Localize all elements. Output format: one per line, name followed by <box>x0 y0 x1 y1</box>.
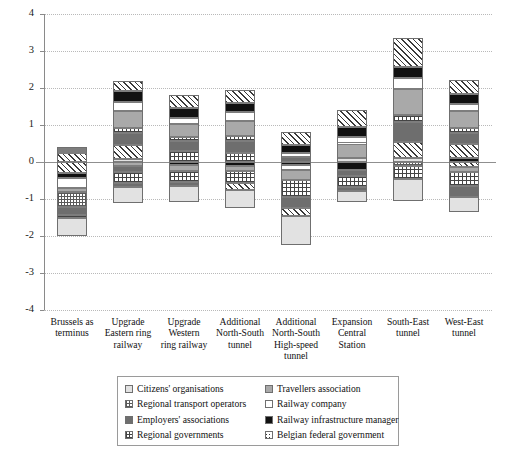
bar-segment[interactable] <box>337 127 367 137</box>
bar-segment[interactable] <box>57 153 87 162</box>
bar-column[interactable] <box>337 14 367 310</box>
x-axis-label-line: Additional <box>265 316 327 327</box>
bar-segment[interactable] <box>281 216 311 246</box>
bar-segment[interactable] <box>337 162 367 170</box>
x-axis-label-line: Brussels as <box>41 316 103 327</box>
bar-segment[interactable] <box>113 102 143 111</box>
bar-segment[interactable] <box>57 192 87 207</box>
bar-segment[interactable] <box>393 142 423 159</box>
bar-segment[interactable] <box>449 128 479 133</box>
bar-segment[interactable] <box>113 145 143 159</box>
x-axis-label-line: Additional <box>209 316 271 327</box>
bar-segment[interactable] <box>225 171 255 183</box>
bar-segment[interactable] <box>169 151 199 162</box>
bar-column[interactable] <box>225 14 255 310</box>
bar-segment[interactable] <box>393 115 423 122</box>
bar-segment[interactable] <box>225 112 255 120</box>
bar-segment[interactable] <box>281 197 311 208</box>
legend-grid: Citizens' organisationsTravellers associ… <box>125 381 392 443</box>
legend: Citizens' organisationsTravellers associ… <box>117 376 399 446</box>
bar-column[interactable] <box>449 14 479 310</box>
bar-segment[interactable] <box>449 144 479 158</box>
bar-segment[interactable] <box>169 186 199 202</box>
x-axis-category-label: South-Easttunnel <box>377 316 439 339</box>
gridline <box>44 310 492 311</box>
bar-segment[interactable] <box>337 144 367 158</box>
bar-segment[interactable] <box>113 91 143 103</box>
bar-column[interactable] <box>393 14 423 310</box>
bar-segment[interactable] <box>113 128 143 133</box>
bar-segment[interactable] <box>393 179 423 200</box>
bar-column[interactable] <box>57 14 87 310</box>
bar-segment[interactable] <box>169 108 199 118</box>
bar-segment[interactable] <box>281 170 311 180</box>
bar-column[interactable] <box>169 14 199 310</box>
bar-segment[interactable] <box>449 80 479 94</box>
x-axis-label-line: Upgrade <box>97 316 159 327</box>
bar-segment[interactable] <box>113 133 143 145</box>
bar-segment[interactable] <box>337 137 367 143</box>
bar-segment[interactable] <box>225 136 255 140</box>
bar-segment[interactable] <box>57 151 87 153</box>
bar-segment[interactable] <box>225 121 255 137</box>
bar-segment[interactable] <box>281 208 311 215</box>
bar-segment[interactable] <box>169 118 199 124</box>
bar-segment[interactable] <box>449 186 479 196</box>
bar-column[interactable] <box>113 14 143 310</box>
x-axis-label-line: ring railway <box>153 339 215 350</box>
bar-segment[interactable] <box>113 111 143 128</box>
bar-segment[interactable] <box>57 218 87 236</box>
bar-segment[interactable] <box>393 122 423 142</box>
bar-segment[interactable] <box>113 187 143 203</box>
bar-segment[interactable] <box>449 197 479 212</box>
bar-segment[interactable] <box>57 149 87 151</box>
bar-segment[interactable] <box>225 190 255 208</box>
bar-segment[interactable] <box>225 103 255 113</box>
bar-segment[interactable] <box>169 124 199 137</box>
legend-label: Citizens' organisations <box>137 384 224 394</box>
bar-segment[interactable] <box>113 172 143 183</box>
bar-segment[interactable] <box>449 111 479 128</box>
bar-segment[interactable] <box>337 176 367 187</box>
bar-segment[interactable] <box>281 180 311 197</box>
y-axis-tick-label: -3 <box>8 266 34 277</box>
bar-segment[interactable] <box>449 172 479 187</box>
bar-segment[interactable] <box>449 133 479 144</box>
bar-segment[interactable] <box>169 137 199 141</box>
bar-segment[interactable] <box>393 67 423 79</box>
bar-segment[interactable] <box>281 132 311 145</box>
bar-segment[interactable] <box>57 147 87 149</box>
x-axis-category-label: AdditionalNorth-Southtunnel <box>209 316 271 350</box>
x-axis-label-line: North-South <box>265 327 327 338</box>
x-axis-category-label: ExpansionCentralStation <box>321 316 383 350</box>
bar-segment[interactable] <box>169 141 199 151</box>
bar-segment[interactable] <box>57 178 87 188</box>
bar-segment[interactable] <box>225 141 255 153</box>
bar-segment[interactable] <box>337 110 367 127</box>
bar-segment[interactable] <box>225 183 255 190</box>
bar-segment[interactable] <box>337 191 367 202</box>
bar-column[interactable] <box>281 14 311 310</box>
bar-segment[interactable] <box>449 94 479 104</box>
bar-segment[interactable] <box>57 162 87 173</box>
legend-item: Regional governments <box>125 430 265 440</box>
bar-segment[interactable] <box>57 207 87 215</box>
bar-segment[interactable] <box>281 153 311 157</box>
bar-segment[interactable] <box>393 78 423 88</box>
bar-segment[interactable] <box>225 90 255 103</box>
y-axis-tick-label: -4 <box>8 303 34 314</box>
bar-segment[interactable] <box>225 153 255 162</box>
bar-segment[interactable] <box>169 171 199 182</box>
x-axis-label-line: Station <box>321 339 383 350</box>
bar-segment[interactable] <box>281 145 311 153</box>
bar-segment[interactable] <box>393 166 423 179</box>
bar-segment[interactable] <box>393 89 423 116</box>
bar-segment[interactable] <box>449 104 479 111</box>
x-axis-label-line: tunnel <box>265 350 327 361</box>
bar-segment[interactable] <box>169 95 199 108</box>
legend-swatch-icon <box>265 431 273 439</box>
x-axis-label-line: South-East <box>377 316 439 327</box>
y-axis-tick-label: 0 <box>8 155 34 166</box>
bar-segment[interactable] <box>113 81 143 91</box>
bar-segment[interactable] <box>393 38 423 66</box>
